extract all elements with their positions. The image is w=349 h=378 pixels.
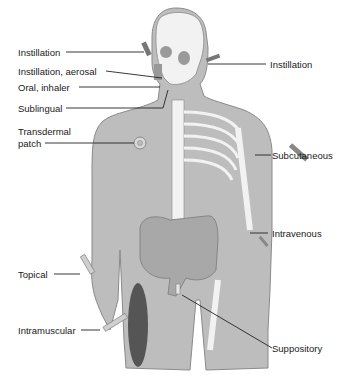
label-instillation-aerosal: Instillation, aerosal bbox=[18, 66, 97, 77]
label-transdermal-line1: Transdermal bbox=[18, 126, 71, 137]
eye-socket bbox=[178, 51, 190, 65]
label-sublingual: Sublingual bbox=[18, 103, 62, 114]
label-transdermal-line2: patch bbox=[18, 138, 41, 149]
spine bbox=[172, 100, 184, 220]
label-topical: Topical bbox=[18, 269, 48, 280]
label-intravenous: Intravenous bbox=[272, 228, 322, 239]
thigh-muscle bbox=[128, 283, 148, 367]
eye-socket bbox=[160, 46, 172, 58]
eye-dropper-icon bbox=[141, 41, 151, 56]
label-oral-inhaler: Oral, inhaler bbox=[18, 82, 70, 93]
suppository-icon bbox=[176, 284, 180, 294]
label-subcutaneous: Subcutaneous bbox=[272, 150, 333, 161]
label-suppository: Suppository bbox=[272, 343, 322, 354]
label-intramuscular: Intramuscular bbox=[18, 325, 76, 336]
label-instillation-ear: Instillation bbox=[270, 59, 312, 70]
label-instillation-eye: Instillation bbox=[18, 47, 60, 58]
